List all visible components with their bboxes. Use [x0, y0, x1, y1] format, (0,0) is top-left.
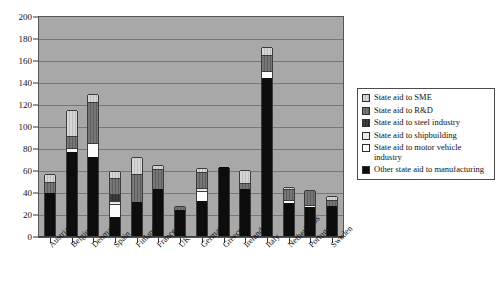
stacked-bar[interactable]	[44, 175, 56, 237]
y-axis-tick-label: 20	[23, 211, 32, 220]
bar-segment[interactable]	[284, 200, 294, 203]
bar-segment[interactable]	[197, 201, 207, 236]
stacked-bar[interactable]	[66, 111, 78, 238]
bar-series-container	[39, 17, 343, 237]
legend-item-label: State aid to SME	[374, 93, 432, 103]
other-manufacturing-swatch	[362, 166, 370, 174]
bar-group	[261, 17, 273, 237]
bar-group	[196, 17, 208, 237]
bar-group	[152, 17, 164, 237]
bar-segment[interactable]	[110, 194, 120, 201]
sme-swatch	[362, 94, 370, 102]
bar-segment[interactable]	[262, 55, 272, 72]
legend-item[interactable]: State aid to motor vehicle industry	[362, 143, 490, 162]
y-axis-tick-label: 180	[19, 35, 33, 44]
bar-segment[interactable]	[262, 78, 272, 236]
y-axis-tick-label: 100	[19, 123, 33, 132]
bar-segment[interactable]	[305, 205, 315, 207]
bar-segment[interactable]	[197, 168, 207, 172]
legend-item-label: State aid to R&D	[374, 106, 433, 116]
y-axis-tick-label: 200	[19, 13, 33, 22]
stacked-bar[interactable]	[283, 188, 295, 238]
stacked-bar-chart: 020406080100120140160180200 AustriaBelgi…	[0, 0, 498, 303]
bar-segment[interactable]	[153, 169, 163, 189]
bar-segment[interactable]	[132, 174, 142, 202]
bar-segment[interactable]	[67, 148, 77, 152]
bar-segment[interactable]	[110, 204, 120, 217]
bar-segment[interactable]	[197, 191, 207, 201]
bar-segment[interactable]	[110, 171, 120, 178]
bar-segment[interactable]	[132, 202, 142, 236]
motor-vehicle-swatch	[362, 144, 370, 152]
bar-segment[interactable]	[67, 152, 77, 236]
bar-segment[interactable]	[240, 170, 250, 183]
stacked-bar[interactable]	[261, 48, 273, 237]
bar-group	[239, 17, 251, 237]
y-axis-tick-label: 0	[28, 233, 33, 242]
y-axis-tick-label: 40	[23, 189, 32, 198]
bar-segment[interactable]	[110, 201, 120, 204]
bar-segment[interactable]	[110, 178, 120, 195]
bar-segment[interactable]	[67, 110, 77, 136]
bar-group	[109, 17, 121, 237]
bar-group	[283, 17, 295, 237]
y-axis-tick-label: 60	[23, 167, 32, 176]
chart-legend: State aid to SMEState aid to R&DState ai…	[357, 88, 495, 180]
y-axis-tick-label: 140	[19, 79, 33, 88]
legend-item-label: Other state aid to manufacturing	[374, 165, 484, 175]
bar-group	[218, 17, 230, 237]
stacked-bar[interactable]	[87, 95, 99, 237]
bar-segment[interactable]	[153, 165, 163, 169]
legend-item-label: State aid to motor vehicle industry	[374, 143, 490, 162]
stacked-bar[interactable]	[196, 169, 208, 237]
legend-item[interactable]: State aid to steel industry	[362, 118, 490, 128]
y-axis-tick-label: 80	[23, 145, 32, 154]
bar-segment[interactable]	[45, 182, 55, 193]
bar-segment[interactable]	[327, 196, 337, 199]
bar-group	[131, 17, 143, 237]
bar-segment[interactable]	[262, 47, 272, 55]
bar-segment[interactable]	[305, 190, 315, 205]
bar-segment[interactable]	[88, 94, 98, 102]
y-axis-tick-label: 120	[19, 101, 33, 110]
bar-segment[interactable]	[284, 189, 294, 200]
steel-swatch	[362, 119, 370, 127]
bar-segment[interactable]	[67, 136, 77, 148]
x-axis-labels: AustriaBelgiumDenmarkSpainFinlandFranceU…	[0, 243, 360, 303]
bar-segment[interactable]	[262, 71, 272, 78]
y-axis: 020406080100120140160180200	[0, 10, 38, 244]
legend-item-label: State aid to steel industry	[374, 118, 460, 128]
bar-segment[interactable]	[327, 200, 337, 207]
bar-segment[interactable]	[45, 174, 55, 182]
bar-segment[interactable]	[45, 193, 55, 236]
bar-segment[interactable]	[175, 206, 185, 209]
rd-swatch	[362, 107, 370, 115]
legend-item[interactable]: State aid to shipbuilding	[362, 131, 490, 141]
bar-segment[interactable]	[284, 203, 294, 236]
bar-group	[87, 17, 99, 237]
bar-segment[interactable]	[284, 187, 294, 189]
bar-segment[interactable]	[88, 143, 98, 157]
bar-segment[interactable]	[88, 102, 98, 143]
bar-segment[interactable]	[197, 172, 207, 187]
bar-group	[174, 17, 186, 237]
shipbuilding-swatch	[362, 132, 370, 140]
legend-item[interactable]: State aid to R&D	[362, 106, 490, 116]
bar-group	[304, 17, 316, 237]
bar-group	[44, 17, 56, 237]
bar-segment[interactable]	[197, 188, 207, 191]
bar-segment[interactable]	[132, 157, 142, 175]
y-axis-tick-label: 160	[19, 57, 33, 66]
stacked-bar[interactable]	[131, 158, 143, 237]
legend-item[interactable]: State aid to SME	[362, 93, 490, 103]
bar-segment[interactable]	[240, 183, 250, 189]
legend-item[interactable]: Other state aid to manufacturing	[362, 165, 490, 175]
bar-group	[66, 17, 78, 237]
legend-item-label: State aid to shipbuilding	[374, 131, 457, 141]
stacked-bar[interactable]	[239, 171, 251, 237]
bar-group	[326, 17, 338, 237]
